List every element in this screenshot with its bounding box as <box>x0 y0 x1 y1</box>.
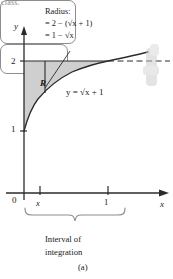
interval-brace <box>25 208 125 221</box>
scan-smudge-artifact <box>143 44 159 86</box>
figure-panel: class. Radius: = 2 − (√x + 1) = 1 − √x y… <box>0 0 173 279</box>
interval-line-2: integration <box>45 248 82 261</box>
region-label-R: R <box>40 79 46 88</box>
x-axis-arrowhead <box>159 190 169 197</box>
callout-line-2: = 1 − √x <box>45 32 92 44</box>
y-tick-label-2: 2 <box>11 57 16 66</box>
x-tick-label-x: x <box>36 199 40 208</box>
x-axis-label: x <box>160 200 164 209</box>
x-tick-label-1: 1 <box>104 198 108 207</box>
y-tick-label-1: 1 <box>11 125 16 134</box>
y-axis-arrowhead <box>21 26 27 35</box>
radius-callout-text: Radius: = 2 − (√x + 1) = 1 − √x <box>45 8 92 44</box>
interval-of-integration-text: Interval of integration <box>45 235 82 261</box>
origin-label: 0 <box>12 196 17 205</box>
panel-caption: (a) <box>78 263 88 272</box>
page-cut-text: class. <box>1 0 20 7</box>
y-axis-label: y <box>14 22 18 31</box>
curve-equation-label: y = √x + 1 <box>66 88 104 97</box>
